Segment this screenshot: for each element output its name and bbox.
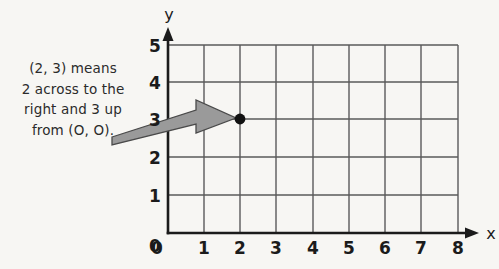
x-tick-label-3: 3 bbox=[265, 238, 287, 258]
x-axis-arrowhead-icon bbox=[465, 228, 479, 239]
y-tick-label-1: 1 bbox=[144, 186, 166, 206]
y-tick-label-5: 5 bbox=[144, 36, 166, 56]
x-tick-label-6: 6 bbox=[374, 238, 396, 258]
annotation-text: (2, 3) means 2 across to the right and 3… bbox=[8, 58, 138, 140]
annotation-line-3: right and 3 up bbox=[8, 99, 138, 120]
diagram-canvas: (2, 3) means 2 across to the right and 3… bbox=[0, 0, 499, 269]
annotation-line-2: 2 across to the bbox=[8, 79, 138, 100]
y-axis-label: y bbox=[159, 5, 179, 24]
y-tick-label-2: 2 bbox=[144, 148, 166, 168]
x-tick-label-5: 5 bbox=[338, 238, 360, 258]
y-tick-label-3: 3 bbox=[144, 110, 166, 130]
y-tick-label-0: 0 bbox=[144, 236, 166, 256]
annotation-line-4: from (O, O). bbox=[8, 120, 138, 141]
x-tick-label-7: 7 bbox=[410, 238, 432, 258]
x-axis-label: x bbox=[481, 224, 499, 243]
x-tick-label-1: 1 bbox=[193, 238, 215, 258]
grid-lines-vertical bbox=[168, 45, 458, 233]
data-point-2-3 bbox=[235, 114, 246, 125]
x-tick-label-8: 8 bbox=[447, 238, 469, 258]
x-tick-label-2: 2 bbox=[229, 238, 251, 258]
axis-lines bbox=[168, 36, 470, 233]
y-tick-label-4: 4 bbox=[144, 73, 166, 93]
x-tick-label-4: 4 bbox=[302, 238, 324, 258]
annotation-line-1: (2, 3) means bbox=[8, 58, 138, 79]
